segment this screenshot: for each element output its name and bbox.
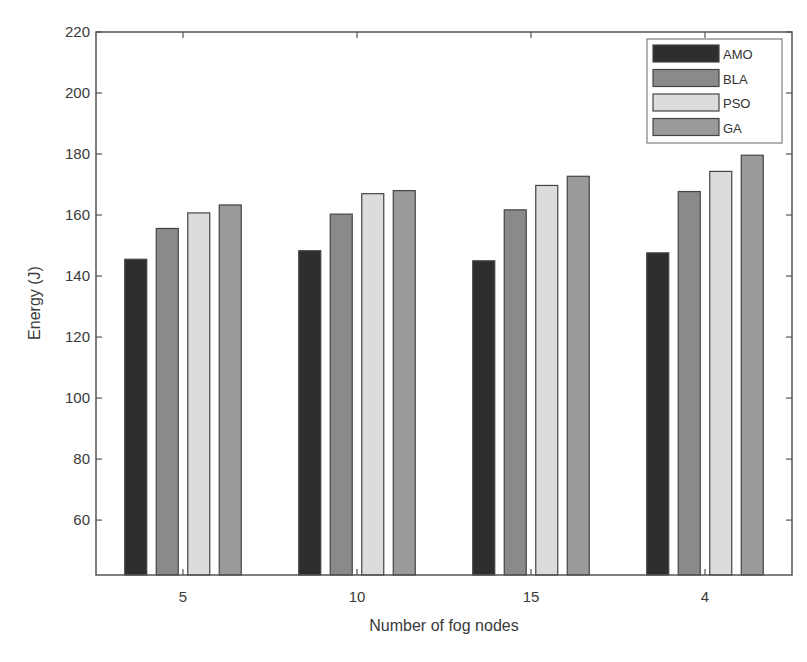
y-tick-label: 180 <box>65 145 90 162</box>
legend-swatch-ga <box>653 119 719 136</box>
legend-label-ga: GA <box>723 121 742 136</box>
bar-amo <box>125 259 147 575</box>
bar-pso <box>188 213 210 575</box>
x-axis: 510154 <box>179 32 709 605</box>
bar-amo <box>299 251 321 575</box>
legend-swatch-pso <box>653 94 719 111</box>
bar-amo <box>473 261 495 575</box>
bar-ga <box>219 205 241 575</box>
bar-ga <box>393 191 415 575</box>
x-tick-label: 4 <box>701 588 709 605</box>
legend: AMOBLAPSOGA <box>647 39 782 143</box>
x-tick-label: 15 <box>523 588 540 605</box>
legend-swatch-bla <box>653 70 719 87</box>
bar-bla <box>678 192 700 575</box>
bar-bla <box>504 210 526 575</box>
bar-pso <box>536 185 558 575</box>
bar-bla <box>330 214 352 575</box>
y-tick-label: 100 <box>65 389 90 406</box>
bar-chart: 6080100120140160180200220 510154 Number … <box>0 0 807 662</box>
bar-bla <box>156 228 178 575</box>
y-tick-label: 200 <box>65 84 90 101</box>
legend-label-bla: BLA <box>723 72 748 87</box>
y-tick-label: 160 <box>65 206 90 223</box>
bar-ga <box>567 176 589 575</box>
x-tick-label: 10 <box>349 588 366 605</box>
legend-label-amo: AMO <box>723 47 753 62</box>
legend-label-pso: PSO <box>723 96 750 111</box>
y-axis-title: Energy (J) <box>26 266 43 340</box>
x-axis-title: Number of fog nodes <box>369 617 518 634</box>
bars-layer <box>125 155 764 575</box>
bar-pso <box>710 171 732 575</box>
y-tick-label: 120 <box>65 328 90 345</box>
y-tick-label: 220 <box>65 23 90 40</box>
x-tick-label: 5 <box>179 588 187 605</box>
y-tick-label: 60 <box>73 511 90 528</box>
bar-amo <box>647 253 669 575</box>
bar-pso <box>362 194 384 575</box>
y-tick-label: 140 <box>65 267 90 284</box>
legend-swatch-amo <box>653 45 719 62</box>
y-tick-label: 80 <box>73 450 90 467</box>
bar-ga <box>741 155 763 575</box>
